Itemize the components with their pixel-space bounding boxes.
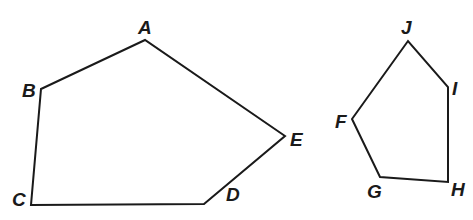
vertex-label-c: C [12, 189, 26, 210]
vertex-label-e: E [290, 129, 304, 150]
vertex-label-d: D [226, 184, 240, 205]
diagram-canvas: A B C D E F G H I J [0, 0, 473, 220]
vertex-label-a: A [137, 17, 152, 38]
vertex-label-f: F [335, 111, 348, 132]
vertex-label-g: G [367, 181, 382, 202]
polygon-figure: A B C D E F G H I J [0, 0, 473, 220]
vertex-label-j: J [401, 17, 412, 38]
vertex-label-h: H [451, 179, 466, 200]
pentagon-abcde [31, 40, 285, 205]
pentagon-fghij [352, 41, 448, 182]
vertex-label-i: I [452, 78, 458, 99]
vertex-label-b: B [22, 80, 36, 101]
